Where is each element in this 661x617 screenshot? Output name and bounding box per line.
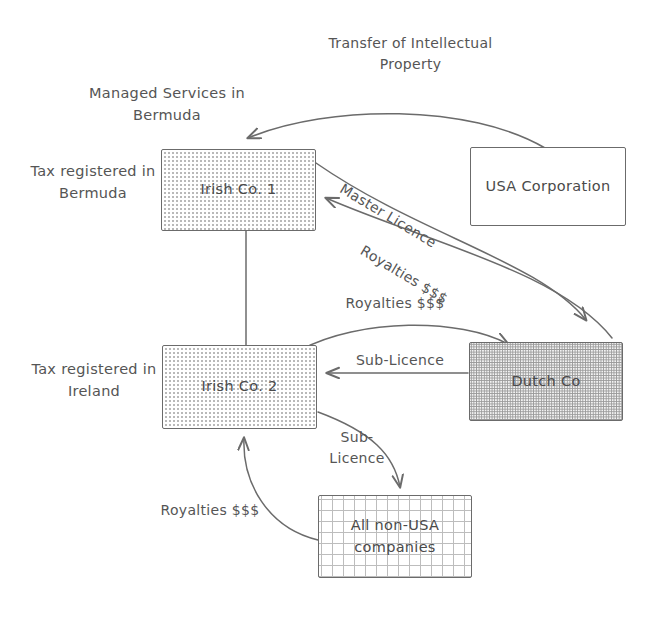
node-dutch-co-label: Dutch Co (505, 371, 586, 393)
node-usa-corporation-label: USA Corporation (480, 176, 617, 198)
edge-label-sub-licence-dutch-to-irish-co-2: Sub-Licence (340, 350, 460, 371)
annotation-managed-services-bermuda: Managed Services in Bermuda (72, 82, 262, 127)
edge-label-royalties-non-usa-to-irish-co-2: Royalties $$$ (148, 500, 272, 521)
edge-royalties-nonusa-irish2 (244, 438, 318, 540)
node-usa-corporation[interactable]: USA Corporation (470, 147, 626, 226)
annotation-tax-registered-bermuda: Tax registered in Bermuda (18, 160, 168, 205)
edge-transfer-ip (248, 114, 545, 148)
node-irish-co-2-label: Irish Co. 2 (195, 376, 283, 398)
node-dutch-co[interactable]: Dutch Co (469, 342, 623, 421)
node-all-non-usa-companies-label: All non-USA companies (319, 515, 471, 559)
edge-label-transfer-ip: Transfer of Intellectual Property (303, 33, 518, 75)
node-irish-co-2[interactable]: Irish Co. 2 (162, 345, 317, 429)
diagram-canvas: Irish Co. 1 USA Corporation Irish Co. 2 … (0, 0, 661, 617)
node-all-non-usa-companies[interactable]: All non-USA companies (318, 495, 472, 578)
edge-label-sub-licence-irish-co-2-to-non-usa: Sub- Licence (320, 427, 394, 469)
edge-label-royalties-irish-co-2-to-dutch: Royalties $$$ (330, 293, 460, 314)
node-irish-co-1-label: Irish Co. 1 (194, 179, 282, 201)
node-irish-co-1[interactable]: Irish Co. 1 (161, 149, 316, 231)
annotation-tax-registered-ireland: Tax registered in Ireland (20, 358, 168, 403)
